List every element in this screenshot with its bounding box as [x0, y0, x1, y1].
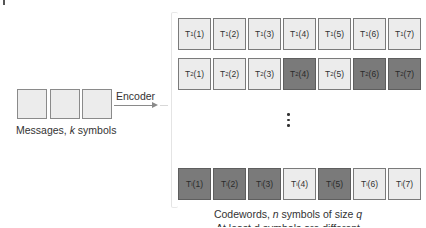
codewords-caption-line2: At least d symbols are different — [200, 222, 376, 228]
codewords-caption-block: Codewords, n symbols of size q At least … — [200, 208, 376, 227]
codeword-symbol-cell: T1(1) — [178, 18, 211, 50]
codeword-symbol-cell: T1(3) — [248, 18, 281, 50]
vertical-ellipsis-icon — [287, 113, 290, 130]
messages-caption-suffix: symbols — [75, 124, 116, 136]
codeword-symbol-cell: T1(6) — [353, 18, 386, 50]
codeword-symbol-cell: Ti(4) — [283, 168, 316, 200]
codeword-symbol-cell: T1(2) — [213, 18, 246, 50]
message-symbol-box — [82, 89, 112, 119]
codeword-symbol-cell: T2(5) — [318, 58, 351, 90]
codewords-caption-line1: Codewords, n symbols of size q — [200, 208, 376, 222]
codeword-symbol-cell: T2(1) — [178, 58, 211, 90]
codeword-symbol-cell: T1(5) — [318, 18, 351, 50]
codeword-symbol-cell: Ti(7) — [388, 168, 421, 200]
messages-caption: Messages, k symbols — [16, 124, 116, 136]
codeword-symbol-cell: T2(3) — [248, 58, 281, 90]
codeword-symbol-cell: T2(4) — [283, 58, 316, 90]
arrow-connector-dash — [160, 105, 168, 106]
codeword-symbol-cell: T1(4) — [283, 18, 316, 50]
codeword-symbol-cell: Ti(2) — [213, 168, 246, 200]
codewords-bracket — [171, 12, 178, 208]
encoder-arrow-line — [114, 105, 154, 106]
message-symbol-box — [50, 89, 80, 119]
codeword-symbol-cell: Ti(6) — [353, 168, 386, 200]
codeword-symbol-cell: T2(7) — [388, 58, 421, 90]
encoder-label: Encoder — [116, 90, 155, 102]
arrow-right-icon — [152, 102, 158, 108]
codeword-symbol-cell: Ti(1) — [178, 168, 211, 200]
codeword-symbol-cell: T2(6) — [353, 58, 386, 90]
corner-mark — [3, 0, 5, 5]
codeword-symbol-cell: T1(7) — [388, 18, 421, 50]
codeword-symbol-cell: Ti(3) — [248, 168, 281, 200]
codeword-symbol-cell: T2(2) — [213, 58, 246, 90]
message-symbol-box — [17, 89, 47, 119]
messages-caption-prefix: Messages, — [16, 124, 70, 136]
codeword-symbol-cell: Ti(5) — [318, 168, 351, 200]
